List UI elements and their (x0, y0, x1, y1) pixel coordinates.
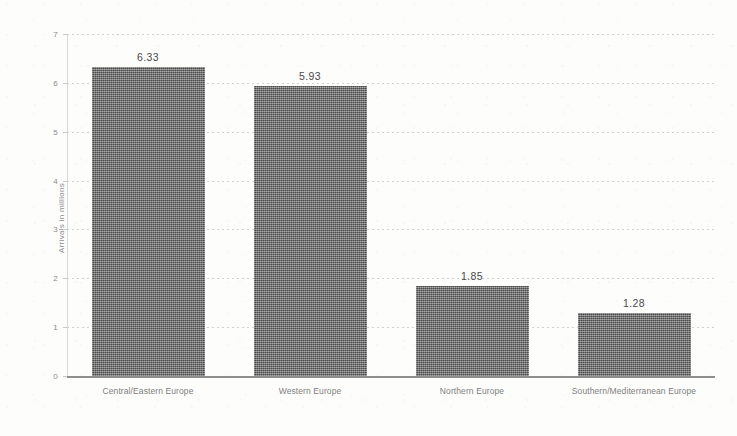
bar-value-label: 6.33 (92, 51, 205, 63)
y-axis-title: Arrivals in millions (57, 183, 66, 253)
y-tick-mark (63, 83, 67, 84)
x-axis-category-label: Central/Eastern Europe (73, 386, 223, 397)
bar[interactable] (92, 67, 205, 376)
x-axis-category-label: Southern/Mediterranean Europe (559, 386, 709, 397)
y-tick-label: 1 (53, 323, 58, 332)
y-tick-mark (63, 181, 67, 182)
bar-group[interactable]: 5.93 (254, 86, 367, 376)
x-axis-category-label: Northern Europe (397, 386, 547, 397)
y-tick-label: 4 (53, 176, 58, 185)
bar[interactable] (416, 286, 529, 376)
bar-group[interactable]: 6.33 (92, 67, 205, 376)
y-tick-label: 0 (53, 372, 58, 381)
y-tick-label: 3 (53, 225, 58, 234)
x-axis-line (67, 376, 715, 378)
y-tick-mark (63, 376, 67, 377)
y-tick-label: 5 (53, 127, 58, 136)
y-tick-label: 2 (53, 274, 58, 283)
bar[interactable] (578, 313, 691, 376)
gridline (67, 34, 715, 35)
plot-area: 01234567 6.335.931.851.28 Central/Easter… (67, 34, 715, 378)
y-tick-mark (63, 327, 67, 328)
bar-value-label: 1.85 (416, 270, 529, 282)
x-axis-category-label: Western Europe (235, 386, 385, 397)
y-tick-mark (63, 132, 67, 133)
y-tick-mark (63, 278, 67, 279)
bar-value-label: 5.93 (254, 70, 367, 82)
bar-chart: Arrivals in millions 01234567 6.335.931.… (0, 0, 737, 436)
bar-value-label: 1.28 (578, 297, 691, 309)
bar-group[interactable]: 1.28 (578, 313, 691, 376)
y-tick-label: 7 (53, 30, 58, 39)
bar[interactable] (254, 86, 367, 376)
y-tick-label: 6 (53, 78, 58, 87)
bar-group[interactable]: 1.85 (416, 286, 529, 376)
y-tick-mark (63, 34, 67, 35)
y-tick-mark (63, 229, 67, 230)
